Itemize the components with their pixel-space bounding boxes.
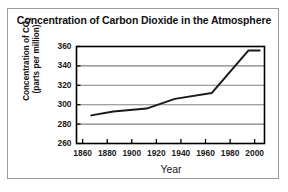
data-line-atmospheric-co2 [91,50,259,115]
chart-figure: Concentration of Carbon Dioxide in the A… [0,0,288,192]
y-tick-label-360: 360 [48,41,72,51]
plot-frame [77,47,265,144]
x-axis-title: Year [76,163,266,175]
gridlines-group [77,47,265,144]
y-tick-label-280: 280 [48,119,72,129]
y-tick-label-320: 320 [48,80,72,90]
y-tick-label-260: 260 [48,138,72,148]
y-tick-label-340: 340 [48,60,72,70]
x-tick-label-2000: 2000 [240,148,270,158]
y-tick-label-300: 300 [48,99,72,109]
plot-frame-group [77,47,265,144]
